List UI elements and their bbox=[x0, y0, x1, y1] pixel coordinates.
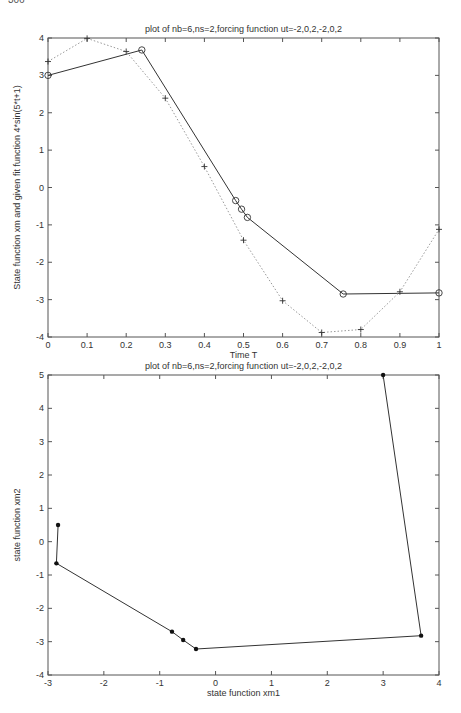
figure-canvas: plot of nb=6,ns=2,forcing function ut=-2… bbox=[0, 0, 461, 713]
x-axis-label: state function xm1 bbox=[207, 688, 280, 698]
y-tick-label: 2 bbox=[39, 108, 44, 118]
x-tick-label: 0.9 bbox=[394, 340, 407, 350]
plot-frame bbox=[48, 375, 439, 675]
x-tick-label: -1 bbox=[156, 678, 164, 688]
x-tick-label: 0.3 bbox=[159, 340, 172, 350]
y-tick-label: 1 bbox=[39, 503, 44, 513]
x-tick-label: 2 bbox=[325, 678, 330, 688]
x-tick-label: 0.5 bbox=[237, 340, 250, 350]
y-tick-label: -2 bbox=[36, 257, 44, 267]
x-tick-label: 0 bbox=[213, 678, 218, 688]
x-tick-label: 3 bbox=[381, 678, 386, 688]
x-axis-label: Time T bbox=[230, 350, 258, 360]
star-marker-icon bbox=[194, 647, 198, 651]
plus-marker-icon bbox=[241, 237, 247, 243]
plus-marker-icon bbox=[358, 327, 364, 333]
x-tick-label: 4 bbox=[436, 678, 441, 688]
plus-marker-icon bbox=[319, 330, 325, 336]
y-tick-label: -3 bbox=[36, 295, 44, 305]
x-tick-label: 0.2 bbox=[120, 340, 133, 350]
y-tick-label: -4 bbox=[36, 670, 44, 680]
y-tick-label: 3 bbox=[39, 437, 44, 447]
x-tick-label: 0.1 bbox=[81, 340, 94, 350]
x-tick-label: 0.8 bbox=[355, 340, 368, 350]
x-tick-label: 1 bbox=[269, 678, 274, 688]
x-tick-label: -3 bbox=[44, 678, 52, 688]
series-line bbox=[56, 375, 421, 649]
series-line bbox=[48, 38, 439, 332]
star-marker-icon bbox=[170, 629, 174, 633]
star-marker-icon bbox=[56, 523, 60, 527]
y-tick-label: 0 bbox=[39, 537, 44, 547]
star-marker-icon bbox=[54, 561, 58, 565]
star-marker-icon bbox=[181, 638, 185, 642]
x-tick-label: 1 bbox=[436, 340, 441, 350]
y-tick-label: -1 bbox=[36, 220, 44, 230]
y-axis-label: state function xm2 bbox=[12, 488, 22, 561]
y-tick-label: 1 bbox=[39, 145, 44, 155]
plus-marker-icon bbox=[280, 298, 286, 304]
x-tick-label: 0.7 bbox=[315, 340, 328, 350]
chart-2: plot of nb=6,ns=2,forcing function ut=-2… bbox=[12, 361, 442, 698]
series-line bbox=[48, 50, 439, 294]
plot-frame bbox=[48, 38, 439, 337]
x-tick-label: 0 bbox=[45, 340, 50, 350]
y-tick-label: 4 bbox=[39, 33, 44, 43]
x-tick-label: 0.4 bbox=[198, 340, 211, 350]
y-axis-label: State function xm and given fit function… bbox=[12, 85, 22, 289]
plus-marker-icon bbox=[436, 226, 442, 232]
star-marker-icon bbox=[381, 373, 385, 377]
plus-marker-icon bbox=[201, 164, 207, 170]
y-tick-label: 5 bbox=[39, 370, 44, 380]
x-tick-label: -2 bbox=[100, 678, 108, 688]
plus-marker-icon bbox=[45, 59, 51, 65]
plus-marker-icon bbox=[84, 35, 90, 41]
chart-title: plot of nb=6,ns=2,forcing function ut=-2… bbox=[145, 24, 342, 34]
chart-1: plot of nb=6,ns=2,forcing function ut=-2… bbox=[12, 24, 442, 360]
y-tick-label: 4 bbox=[39, 403, 44, 413]
y-tick-label: -1 bbox=[36, 570, 44, 580]
chart-title: plot of nb=6,ns=2,forcing function ut=-2… bbox=[145, 361, 342, 371]
y-tick-label: -2 bbox=[36, 603, 44, 613]
y-tick-label: -4 bbox=[36, 332, 44, 342]
y-tick-label: 0 bbox=[39, 183, 44, 193]
y-tick-label: 2 bbox=[39, 470, 44, 480]
y-tick-label: 3 bbox=[39, 70, 44, 80]
y-tick-label: -3 bbox=[36, 637, 44, 647]
star-marker-icon bbox=[419, 633, 423, 637]
x-tick-label: 0.6 bbox=[276, 340, 289, 350]
